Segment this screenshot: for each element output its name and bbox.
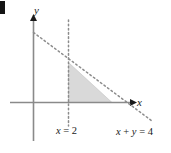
diagonal-line-equation-label: x + y = 4: [116, 127, 153, 138]
vertical-line-equation-rest: = 2: [61, 125, 77, 136]
x-axis-arrowhead: [130, 99, 137, 106]
figure-container: y x x = 2 x + y = 4: [0, 0, 171, 153]
y-axis-label: y: [34, 5, 39, 16]
x-axis-label: x: [137, 97, 142, 108]
diagonal-equation-rest: = 4: [137, 126, 153, 137]
vertical-line-equation-label: x = 2: [56, 126, 77, 137]
shaded-region: [69, 63, 113, 103]
diagonal-dotted-line: [34, 33, 153, 122]
diagonal-plus-sign: +: [121, 126, 132, 137]
